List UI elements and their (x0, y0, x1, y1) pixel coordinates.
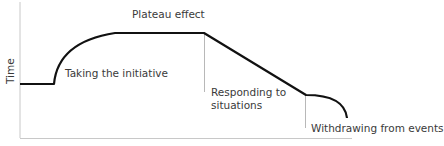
y-axis-label: Time (4, 60, 16, 84)
initiative-label: Taking the initiative (65, 67, 168, 80)
withdrawing-label: Withdrawing from events (311, 122, 444, 135)
responding-label-line2: situations (211, 99, 262, 112)
responding-label-line1: Responding to (211, 86, 286, 99)
plateau-label: Plateau effect (132, 8, 205, 21)
